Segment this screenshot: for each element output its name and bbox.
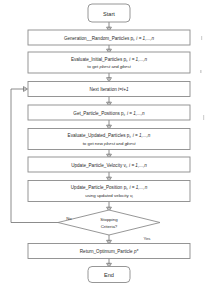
- start-label: Start: [103, 11, 115, 17]
- node-evaluate-initial-particles[interactable]: Evaluate_Initial_Particles pi, i = 1,...…: [28, 52, 190, 73]
- scan-artifacts: [200, 36, 204, 120]
- evaluate-updated-label-line2: to get new pbest and gbest: [83, 141, 137, 146]
- node-update-particle-position[interactable]: Update_Particle_Position pi, i = 1,...,n…: [28, 181, 190, 202]
- node-evaluate-updated-particles[interactable]: Evaluate_Updated_Particles pi, i = 1,...…: [28, 129, 190, 150]
- evaluate-initial-shape: [28, 52, 190, 73]
- return-optimum-label: Return_Optimum_Particle p*: [80, 249, 139, 254]
- node-return-optimum-particle[interactable]: Return_Optimum_Particle p*: [28, 244, 190, 259]
- next-iteration-label: Next Iteration t=t+1: [89, 87, 129, 92]
- evaluate-updated-shape: [28, 129, 190, 150]
- stopping-criteria-label-line1: Stopping: [100, 217, 118, 222]
- update-position-shape: [28, 181, 190, 202]
- node-end[interactable]: End: [88, 267, 130, 283]
- node-update-particle-velocity[interactable]: Update_Particle_Velocity vi, i = 1,...,n: [28, 157, 190, 172]
- stopping-criteria-shape: [58, 210, 160, 235]
- edge-label-no: No: [66, 216, 72, 221]
- evaluate-initial-label-line2: to get pbest and gbest: [87, 64, 131, 69]
- node-stopping-criteria[interactable]: Stopping Criteria?: [58, 210, 160, 235]
- node-next-iteration[interactable]: Next Iteration t=t+1: [28, 82, 190, 97]
- node-start[interactable]: Start: [88, 4, 130, 22]
- edge-label-yes: Yes: [143, 236, 150, 241]
- node-generate-random-particles[interactable]: Generation__Random_Particles pi, i = 1,.…: [28, 30, 190, 45]
- node-get-particle-positions[interactable]: Get_Particle_Positions pi, i = 1,...,n: [28, 105, 190, 120]
- stopping-criteria-label-line2: Criteria?: [101, 224, 118, 229]
- end-label: End: [104, 272, 114, 278]
- flowchart-canvas: Start Generation__Random_Particles pi, i…: [0, 0, 211, 288]
